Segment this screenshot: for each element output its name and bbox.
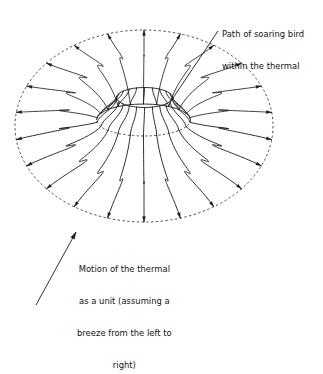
flow-line-hole-segment bbox=[130, 88, 136, 105]
flow-line-arrowhead bbox=[143, 217, 146, 222]
flow-line bbox=[157, 135, 181, 218]
flow-line-arrowhead bbox=[27, 162, 33, 166]
thermal-motion-label-line-3: breeze from the left to bbox=[77, 328, 172, 339]
flow-line-hole-segment bbox=[118, 106, 129, 134]
flow-line bbox=[144, 136, 145, 222]
flow-line bbox=[47, 63, 108, 109]
flow-line-arrowhead bbox=[176, 34, 180, 39]
flow-line-hole-segment bbox=[152, 88, 156, 105]
flow-line-arrowhead bbox=[266, 111, 271, 114]
flow-line bbox=[74, 45, 118, 106]
flow-line bbox=[186, 127, 261, 166]
flow-line bbox=[179, 130, 241, 188]
flow-line-arrowhead bbox=[108, 34, 112, 39]
flow-line bbox=[74, 133, 118, 206]
flow-line-hole-segment bbox=[144, 108, 145, 137]
bird-path-label-line-1: Path of soaring bird bbox=[222, 29, 304, 40]
flow-line-arrowhead bbox=[27, 85, 33, 88]
thermal-motion-label-line-2: as a unit (assuming a bbox=[77, 296, 172, 307]
flow-line-arrowhead bbox=[266, 137, 272, 140]
flow-line-hole-segment bbox=[130, 107, 136, 135]
flow-line-arrowhead bbox=[16, 137, 22, 140]
flow-line-arrowhead bbox=[16, 111, 21, 114]
flow-line bbox=[47, 130, 108, 188]
flow-line bbox=[144, 30, 145, 104]
thermal-motion-label-line-4: right) bbox=[77, 360, 172, 371]
flow-line bbox=[27, 127, 101, 166]
flow-line-arrowhead bbox=[256, 162, 262, 166]
flow-line bbox=[16, 110, 97, 118]
flow-line bbox=[157, 34, 181, 105]
thermal-motion-label: Motion of the thermal as a unit (assumin… bbox=[77, 243, 172, 374]
flow-line-arrowhead bbox=[177, 213, 180, 219]
flow-line bbox=[169, 45, 214, 106]
flow-line-arrowhead bbox=[143, 30, 146, 35]
flow-line bbox=[190, 110, 272, 118]
flow-line bbox=[169, 133, 214, 206]
thermal-motion-leader-arrow bbox=[36, 232, 76, 305]
thermal-motion-label-line-1: Motion of the thermal bbox=[77, 264, 172, 275]
bird-path-label-line-2: within the thermal bbox=[222, 61, 304, 72]
thermal-motion-arrowhead bbox=[71, 232, 76, 239]
flow-line bbox=[27, 86, 101, 113]
flow-line-arrowhead bbox=[108, 213, 111, 219]
flow-line-hole-segment bbox=[152, 107, 156, 135]
flow-line-arrowhead bbox=[47, 63, 53, 66]
bird-path-label: Path of soaring bird within the thermal bbox=[222, 8, 304, 93]
flow-line bbox=[108, 135, 131, 218]
